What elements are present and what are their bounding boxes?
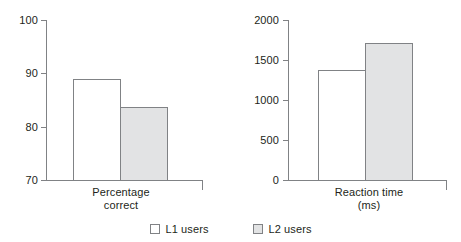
y-tick-label-left-90: 90 (2, 68, 38, 79)
y-tick-label-right-0: 0 (239, 175, 279, 186)
y-tick-label-left-80: 80 (2, 122, 38, 133)
y-tick-label-left-70: 70 (2, 175, 38, 186)
legend-swatch-l1-icon (150, 224, 160, 234)
x-axis-label-left-line2: correct (60, 199, 182, 212)
legend-label-l2: L2 users (269, 224, 312, 235)
y-tick-label-right-1000: 1000 (239, 95, 279, 106)
y-tick-right-500 (283, 140, 288, 141)
y-tick-left-90 (41, 73, 46, 74)
bar-right-l1-users (318, 70, 366, 181)
figure-two-bar-charts: 100 90 80 70 Percentage correct 2000 150… (0, 0, 461, 242)
x-axis-label-right-line1: Reaction time (304, 186, 434, 199)
legend-swatch-l2-icon (253, 224, 263, 234)
y-axis-line-left (46, 20, 47, 181)
y-tick-left-100 (41, 20, 46, 21)
bar-right-l2-users (365, 43, 413, 181)
chart-reaction-time: 2000 1500 1000 500 0 Reaction time (ms) (231, 0, 461, 215)
y-tick-right-1500 (283, 60, 288, 61)
y-axis-line-right (288, 20, 289, 181)
y-tick-right-2000 (283, 20, 288, 21)
y-tick-left-80 (41, 127, 46, 128)
legend-item-l2-users: L2 users (253, 224, 312, 235)
y-tick-label-right-2000: 2000 (239, 15, 279, 26)
y-tick-left-70 (41, 180, 46, 181)
x-axis-label-left-line1: Percentage (60, 186, 182, 199)
y-tick-right-0 (283, 180, 288, 181)
legend-label-l1: L1 users (166, 224, 209, 235)
x-axis-label-right-line2: (ms) (304, 199, 434, 212)
legend-item-l1-users: L1 users (150, 224, 209, 235)
x-axis-end-tick-left (202, 180, 203, 190)
x-axis-end-tick-right (446, 180, 447, 190)
y-tick-label-right-500: 500 (239, 135, 279, 146)
y-tick-label-left-100: 100 (2, 15, 38, 26)
bar-left-l1-users (73, 79, 121, 181)
bar-left-l2-users (120, 107, 168, 181)
y-tick-right-1000 (283, 100, 288, 101)
chart-legend: L1 users L2 users (0, 216, 461, 242)
chart-percentage-correct: 100 90 80 70 Percentage correct (0, 0, 230, 215)
y-tick-label-right-1500: 1500 (239, 55, 279, 66)
